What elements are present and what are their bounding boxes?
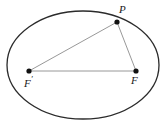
point-label-F-prime-letter: F bbox=[24, 77, 31, 89]
point-F-marker bbox=[133, 68, 138, 73]
ellipse-focal-radii-figure: P F′ F bbox=[0, 0, 168, 130]
figure-canvas bbox=[0, 0, 168, 130]
point-label-F-prime: F′ bbox=[24, 75, 33, 89]
segment-left-focus-to-P bbox=[29, 22, 117, 71]
segment-P-to-right-focus bbox=[117, 22, 136, 71]
ellipse-curve bbox=[7, 11, 159, 119]
point-label-F: F bbox=[131, 75, 138, 86]
point-label-P: P bbox=[119, 4, 126, 15]
prime-mark-icon: ′ bbox=[31, 74, 33, 84]
point-P-marker bbox=[114, 19, 119, 24]
point-F-prime-marker bbox=[26, 68, 31, 73]
